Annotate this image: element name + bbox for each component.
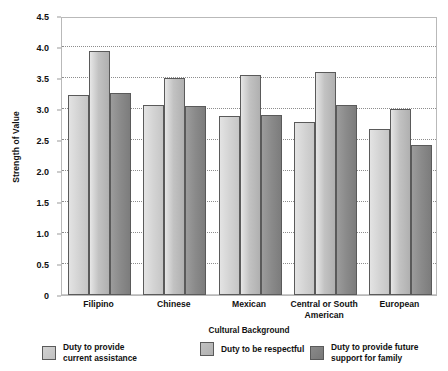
x-axis-tick-label-line: Chinese xyxy=(136,299,211,310)
x-axis-title: Cultural Background xyxy=(61,326,437,335)
bar[interactable] xyxy=(110,93,131,295)
bar[interactable] xyxy=(369,129,390,295)
legend-label: Duty to provide future support for famil… xyxy=(331,342,418,363)
x-axis-tick-label-line: European xyxy=(362,299,437,310)
x-axis-tick-label: Filipino xyxy=(61,299,136,310)
y-axis-tick-labels: 00.51.01.52.02.53.03.54.04.5 xyxy=(0,0,57,300)
y-axis-tick-label: 4.0 xyxy=(36,43,49,53)
x-axis-tick-labels: FilipinoChineseMexicanCentral or SouthAm… xyxy=(61,299,437,325)
bar[interactable] xyxy=(68,95,89,295)
y-axis-tick-label: 2.5 xyxy=(36,136,49,146)
y-axis-tick-label: 0.5 xyxy=(36,260,49,270)
y-axis-tick-label: 3.0 xyxy=(36,105,49,115)
bar[interactable] xyxy=(261,115,282,295)
chart-legend: Duty to provide current assistanceDuty t… xyxy=(0,342,448,371)
y-axis-tick-label: 0 xyxy=(44,291,49,301)
x-axis-tick-label: European xyxy=(362,299,437,310)
x-axis-tick-label-line: Central or South xyxy=(287,299,362,310)
bar-group xyxy=(369,18,432,295)
y-axis-tick-label: 3.5 xyxy=(36,74,49,84)
bar[interactable] xyxy=(336,105,357,295)
x-axis-tick-label-line: Filipino xyxy=(61,299,136,310)
legend-swatch xyxy=(310,346,324,360)
bar[interactable] xyxy=(315,72,336,295)
bar[interactable] xyxy=(294,122,315,295)
bar-group xyxy=(219,18,282,295)
bar[interactable] xyxy=(390,109,411,295)
x-axis-tick-label-line: Mexican xyxy=(211,299,286,310)
bar-group xyxy=(294,18,357,295)
bar-group xyxy=(143,18,206,295)
legend-item[interactable]: Duty to be respectful xyxy=(200,342,304,356)
bar[interactable] xyxy=(411,145,432,295)
x-axis-tick-label: Central or SouthAmerican xyxy=(287,299,362,321)
bar-group xyxy=(68,18,131,295)
y-axis-tick-label: 1.0 xyxy=(36,229,49,239)
bar[interactable] xyxy=(240,75,261,295)
bar-chart-figure: Strength of Value 00.51.01.52.02.53.03.5… xyxy=(0,0,448,371)
legend-swatch xyxy=(42,346,56,360)
legend-swatch xyxy=(200,342,214,356)
bar[interactable] xyxy=(143,105,164,295)
legend-label: Duty to be respectful xyxy=(221,344,304,355)
x-axis-tick-label: Mexican xyxy=(211,299,286,310)
legend-label: Duty to provide current assistance xyxy=(63,342,137,363)
bar[interactable] xyxy=(164,78,185,295)
plot-area xyxy=(61,17,437,296)
bar[interactable] xyxy=(185,106,206,295)
y-axis-tick-label: 2.0 xyxy=(36,167,49,177)
x-axis-tick-label: Chinese xyxy=(136,299,211,310)
bar[interactable] xyxy=(89,51,110,295)
x-axis-tick-label-line: American xyxy=(287,310,362,321)
bar[interactable] xyxy=(219,116,240,295)
legend-item[interactable]: Duty to provide future support for famil… xyxy=(310,342,418,363)
y-axis-tick-label: 1.5 xyxy=(36,198,49,208)
y-axis-tick-label: 4.5 xyxy=(36,12,49,22)
legend-item[interactable]: Duty to provide current assistance xyxy=(42,342,137,363)
